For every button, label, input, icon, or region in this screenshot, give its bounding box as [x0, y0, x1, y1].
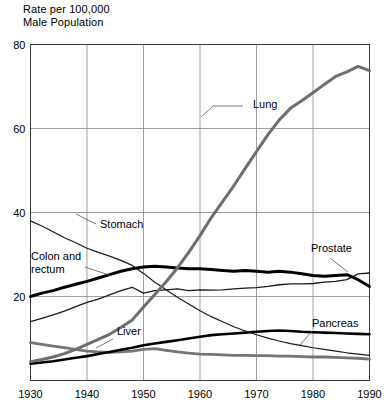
x-axis-tick-labels: 1930194019501960197019801990: [18, 388, 381, 400]
x-tick-label: 1970: [244, 388, 268, 400]
x-tick-label: 1940: [75, 388, 99, 400]
gridlines: [31, 45, 370, 381]
pancreas-label: Pancreas: [312, 317, 359, 329]
x-tick-label: 1960: [188, 388, 212, 400]
chart-root: Rate per 100,000 Male Population 2040608…: [0, 0, 386, 418]
colon-label-line2: rectum: [31, 263, 65, 275]
x-tick-label: 1980: [301, 388, 325, 400]
y-tick-label: 60: [13, 123, 25, 135]
y-tick-label: 40: [13, 207, 25, 219]
x-tick-label: 1990: [357, 388, 381, 400]
prostate-label: Prostate: [311, 242, 352, 254]
lung-leader-line: [201, 106, 243, 117]
y-tick-label: 80: [13, 39, 25, 51]
series-annotations: LungStomachColon andrectumProstatePancre…: [31, 98, 359, 337]
x-tick-label: 1930: [18, 388, 42, 400]
y-axis-tick-labels: 20406080: [13, 39, 25, 303]
stomach-label: Stomach: [100, 218, 143, 230]
x-tick-label: 1950: [131, 388, 155, 400]
lung-label: Lung: [253, 98, 277, 110]
colon-label-line1: Colon and: [31, 250, 81, 262]
colon-leader-line: [85, 267, 112, 276]
prostate-leader-line: [330, 258, 348, 272]
liver-label: Liver: [117, 325, 141, 337]
stomach-leader-line: [76, 214, 96, 224]
y-tick-label: 20: [13, 291, 25, 303]
chart-canvas: 20406080 1930194019501960197019801990 Lu…: [0, 0, 386, 418]
